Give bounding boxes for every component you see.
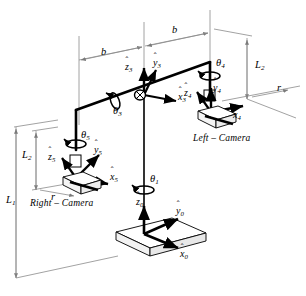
theta1-rotation-arrow	[132, 185, 154, 194]
frame4-z-sub: 4	[188, 92, 191, 99]
right-camera-body	[63, 172, 101, 194]
ext-L1-bottom	[16, 256, 118, 278]
label-L2-left-base: L	[22, 149, 28, 160]
hat-glyph-y3: ˆ	[154, 53, 157, 61]
hat-glyph-z5: ˆ	[49, 147, 52, 155]
ext-L1-top	[14, 120, 58, 127]
dim-r-right	[252, 90, 288, 97]
label-frame3-y: ˆy3	[153, 58, 161, 68]
label-frame4-x: ˆx4	[233, 110, 241, 120]
label-theta3: θ3	[113, 106, 122, 117]
frame3-x-axis	[144, 95, 176, 101]
label-theta5: θ5	[81, 130, 90, 141]
hat-glyph-z0: ˆ	[137, 192, 140, 200]
theta5-arrowhead	[64, 139, 67, 142]
hat-glyph-y5: ˆ	[95, 140, 98, 148]
theta5-sub: 5	[86, 134, 90, 142]
label-L2-left-sub: 2	[28, 154, 32, 162]
ext-L2-right-top	[214, 29, 252, 36]
label-b-right: b	[172, 25, 177, 36]
frame5	[62, 155, 108, 194]
frame4-y-sub: 4	[218, 87, 221, 94]
frame3-y-sub: 3	[158, 62, 161, 69]
kinematic-diagram-svg	[0, 0, 306, 296]
label-frame5-y: ˆy5	[94, 145, 102, 155]
label-frame0-z: ˆz0	[136, 197, 143, 207]
dim-b-left-rev	[81, 47, 142, 60]
hat-glyph-y0: ˆ	[177, 201, 180, 209]
label-L1-sub: 1	[12, 199, 16, 207]
label-frame0-x: ˆx0	[180, 249, 188, 259]
label-r-right: r	[277, 83, 281, 94]
hat-glyph-x5: ˆ	[111, 167, 114, 175]
label-left-camera: Left – Camera	[193, 134, 251, 144]
label-theta4: θ4	[216, 58, 225, 69]
hat-glyph-x0: ˆ	[181, 244, 184, 252]
frame0-x-sub: 0	[185, 253, 188, 260]
label-L1: L1	[6, 195, 15, 206]
frame5-joint-housing	[70, 155, 81, 167]
label-right-camera: Right – Camera	[30, 199, 94, 209]
label-theta1: θ1	[150, 174, 159, 185]
theta1-arrowhead	[132, 185, 135, 188]
frame4-x-sub: 4	[238, 114, 241, 121]
frame5-z-sub: 5	[52, 156, 55, 163]
theta4-arrowhead	[198, 71, 201, 74]
ext-L2-left-top	[32, 127, 58, 131]
frame3-z-sub: 3	[129, 66, 132, 73]
frame5-y-sub: 5	[99, 149, 102, 156]
hat-glyph-x4: ˆ	[234, 105, 237, 113]
label-L1-base: L	[6, 194, 12, 205]
hat-glyph-z3: ˆ	[126, 57, 129, 65]
label-frame0-y: ˆy0	[176, 206, 184, 216]
frame0-y-sub: 0	[181, 210, 184, 217]
theta3-arrowhead	[106, 93, 110, 95]
ext-r-right-base	[222, 86, 300, 101]
frame0-z-sub: 0	[140, 201, 143, 208]
label-frame5-x: ˆx5	[110, 172, 118, 182]
label-frame4-y: ˆy4	[213, 83, 221, 93]
frame0	[116, 206, 206, 256]
theta4-sub: 4	[221, 62, 225, 70]
theta3-sub: 3	[118, 110, 122, 118]
label-L2-right-sub: 2	[261, 64, 265, 72]
label-L2-left: L2	[22, 150, 31, 161]
diagram-canvas: b b L2 r L2 r L1 θ3 θ4 θ5 θ1 ˆz3 ˆy3 ˆx3…	[0, 0, 306, 296]
label-L2-right-base: L	[255, 59, 261, 70]
frame5-x-sub: 5	[115, 176, 118, 183]
ext-r-right-diag	[247, 99, 296, 118]
dim-b-right-rev	[147, 33, 208, 46]
theta1-sub: 1	[155, 178, 159, 186]
hat-glyph-y4: ˆ	[214, 78, 217, 86]
label-frame5-z: ˆz5	[48, 152, 55, 162]
dim-r-left	[40, 190, 74, 196]
label-b-left: b	[101, 47, 106, 58]
frame3-axes	[135, 68, 177, 101]
hat-glyph-x3: ˆ	[179, 87, 182, 95]
label-L2-right: L2	[255, 60, 264, 71]
hat-glyph-z4: ˆ	[185, 83, 188, 91]
base-platform	[116, 218, 206, 256]
label-frame4-z: ˆz4	[184, 88, 191, 98]
label-frame3-z: ˆz3	[125, 62, 132, 72]
